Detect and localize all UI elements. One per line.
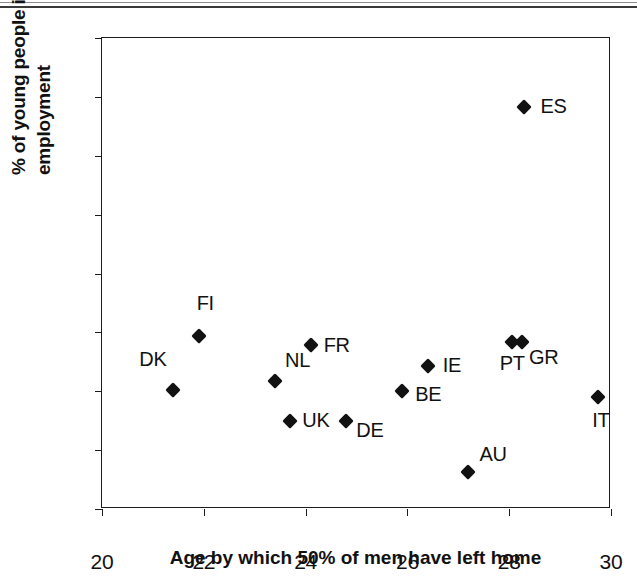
- data-point-label: AU: [479, 443, 506, 466]
- data-point-label: NL: [285, 349, 310, 372]
- x-axis-tick: [407, 509, 408, 516]
- x-axis-tick: [611, 509, 612, 516]
- y-axis-tick: [95, 391, 102, 392]
- scan-artifact-line: [0, 6, 637, 8]
- data-point-marker: [461, 464, 477, 480]
- y-axis-title: % of young people in insecure employment: [14, 120, 54, 460]
- data-point-label: UK: [302, 409, 329, 432]
- data-point-label: DK: [139, 348, 166, 371]
- y-axis-tick: [95, 332, 102, 333]
- data-point-marker: [590, 389, 606, 405]
- y-axis-tick: [95, 38, 102, 39]
- y-axis-title-line-1: % of young people in insecure: [6, 0, 31, 175]
- data-point-label: IE: [443, 354, 461, 377]
- data-point-label: IT: [592, 409, 609, 432]
- data-point-label: GR: [529, 346, 558, 369]
- data-point-label: DE: [356, 419, 383, 442]
- y-axis-title-line-2: employment: [31, 0, 56, 175]
- y-axis-tick: [95, 97, 102, 98]
- data-point-marker: [395, 383, 411, 399]
- y-axis-tick: [95, 450, 102, 451]
- data-point-marker: [165, 382, 181, 398]
- data-point-marker: [514, 335, 530, 351]
- data-point-marker: [420, 358, 436, 374]
- data-point-marker: [191, 329, 207, 345]
- chart-page: % of young people in insecure employment…: [0, 0, 637, 581]
- data-point-marker: [339, 413, 355, 429]
- data-point-label: FR: [324, 334, 350, 357]
- data-point-label: BE: [415, 383, 441, 406]
- y-axis-tick: [95, 156, 102, 157]
- x-axis-title: Age by which 50% of men have left home: [101, 547, 610, 569]
- x-axis-tick: [102, 509, 103, 516]
- data-point-label: PT: [500, 352, 525, 375]
- data-point-marker: [517, 99, 533, 115]
- scan-artifact-line-top: [0, 2, 637, 3]
- x-axis-tick: [509, 509, 510, 516]
- data-point-marker: [267, 373, 283, 389]
- y-axis-tick: [95, 215, 102, 216]
- y-axis-title-text: % of young people in insecure employment: [6, 0, 56, 175]
- x-axis-tick: [204, 509, 205, 516]
- x-axis-tick: [306, 509, 307, 516]
- data-point-marker: [283, 413, 299, 429]
- y-axis-tick: [95, 274, 102, 275]
- data-point-label: ES: [540, 95, 566, 118]
- plot-area: 102030405060708090 202224262830 DKFINLUK…: [101, 37, 610, 508]
- data-point-label: FI: [197, 292, 214, 315]
- y-axis-tick: [95, 509, 102, 510]
